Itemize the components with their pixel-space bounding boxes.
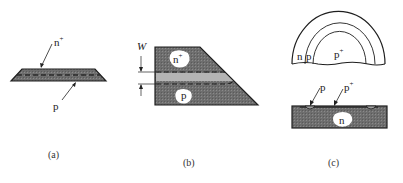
- arrowhead-icon: [334, 100, 338, 106]
- arrowhead-icon: [40, 63, 44, 68]
- broken-edge: [292, 62, 385, 65]
- label-p: p: [53, 100, 59, 112]
- label-n-ring: n: [297, 50, 303, 62]
- caption-c: (c): [328, 157, 339, 169]
- arrow-n-plus: [41, 44, 52, 67]
- label-p-ring: p: [306, 50, 312, 62]
- caption-a: (a): [48, 149, 59, 161]
- label-n-plus: n+: [54, 35, 64, 48]
- label-n-substrate: n: [339, 114, 345, 126]
- label-p-plus-section: p+: [344, 80, 354, 93]
- arrowhead-icon: [139, 84, 143, 89]
- label-w: W: [137, 40, 147, 52]
- middle-ring-p: [305, 23, 375, 64]
- label-p-section: p: [320, 81, 326, 93]
- figure-canvas: n+ p (a) n+ p W (b) n p p+: [0, 0, 403, 183]
- arrowhead-icon: [139, 67, 143, 72]
- panel-a: n+ p (a): [11, 35, 106, 161]
- panel-b: n+ p W (b): [137, 40, 258, 169]
- caption-b: (b): [183, 157, 195, 169]
- label-p-plus-core: p+: [334, 47, 344, 60]
- depletion-band: [156, 73, 233, 81]
- panel-c: n p p+ n p p+ (c): [292, 11, 387, 169]
- label-p: p: [181, 89, 187, 101]
- arrowhead-icon: [310, 100, 314, 106]
